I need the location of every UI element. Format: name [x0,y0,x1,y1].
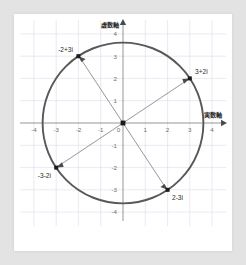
y-tick-pos4: 4 [114,30,118,37]
x-tick-pos2: 2 [166,126,170,133]
y-tick-neg2: -2 [111,164,117,171]
imaginary-axis-arrow [120,19,126,25]
x-tick-zero: 0 [117,126,121,133]
y-tick-neg1: -1 [111,142,117,149]
point-marker-p2 [188,76,192,80]
point-label-p2: 3+2i [195,68,208,75]
x-tick-neg1: -1 [98,126,104,133]
x-tick-neg4: -4 [31,126,37,133]
origin-marker [121,121,126,126]
point-label-p4: 2-3i [172,194,184,201]
y-tick-pos3: 3 [114,53,118,60]
point-marker-p3 [54,166,58,170]
point-label-p3: -3-2i [38,172,52,179]
point-label-p1: -2+3i [58,46,73,53]
x-tick-neg3: -3 [53,126,59,133]
point-marker-p1 [76,54,80,58]
real-axis-label: 実数軸 [204,111,222,119]
complex-plane-plot: -4 -3 -2 -1 0 1 2 3 4 4 3 2 1 -1 -2 -3 -… [18,18,228,228]
y-tick-neg3: -3 [111,186,117,193]
imaginary-axis-label: 虚数軸 [101,21,119,29]
y-tick-neg4: -4 [111,208,117,215]
x-tick-pos4: 4 [210,126,214,133]
argand-diagram-svg: -4 -3 -2 -1 0 1 2 3 4 4 3 2 1 -1 -2 -3 -… [18,18,228,228]
real-axis-arrow [221,120,227,126]
vector-to-p1 [80,58,123,123]
figure-card: -4 -3 -2 -1 0 1 2 3 4 4 3 2 1 -1 -2 -3 -… [14,14,232,251]
x-tick-neg2: -2 [76,126,82,133]
vector-to-p2 [123,79,188,123]
x-tick-pos1: 1 [144,126,148,133]
axis-lines [20,19,227,221]
y-tick-pos1: 1 [114,97,118,104]
point-marker-p4 [166,188,170,192]
x-tick-pos3: 3 [188,126,192,133]
y-tick-pos2: 2 [114,75,118,82]
